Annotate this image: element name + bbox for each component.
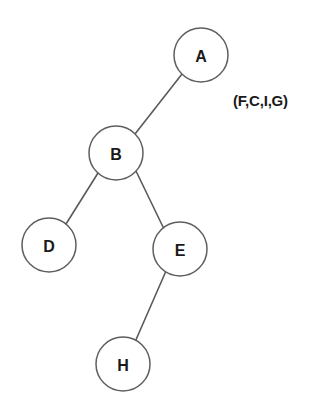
tree-node-b[interactable]: B: [89, 126, 143, 180]
edge-b-e: [136, 171, 164, 229]
node-label-b: B: [110, 146, 122, 163]
tree-diagram-svg: A B D E H: [0, 0, 322, 414]
tree-node-e[interactable]: E: [153, 222, 207, 276]
node-group: A B D E H: [22, 28, 228, 391]
edge-e-h: [135, 271, 166, 342]
tree-node-h[interactable]: H: [96, 337, 150, 391]
node-label-a: A: [195, 48, 207, 65]
tree-node-d[interactable]: D: [22, 218, 76, 272]
tree-diagram-canvas: A B D E H (F,C,I,G): [0, 0, 322, 414]
edge-b-d: [66, 173, 98, 224]
tree-node-a[interactable]: A: [174, 28, 228, 82]
set-annotation-label: (F,C,I,G): [233, 92, 288, 109]
node-label-d: D: [43, 238, 55, 255]
node-label-h: H: [117, 357, 129, 374]
edge-group: [66, 74, 182, 342]
node-label-e: E: [175, 242, 186, 259]
edge-a-b: [135, 74, 182, 134]
